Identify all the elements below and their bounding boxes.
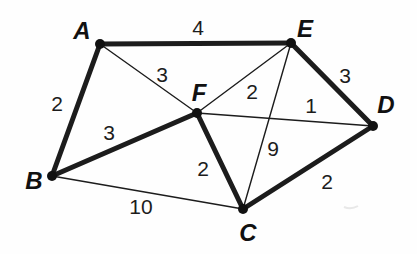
node-dot-F: [192, 108, 202, 118]
edge-weight-A-E: 4: [192, 16, 204, 39]
edge-A-F: [100, 44, 197, 113]
edge-C-D: [243, 126, 373, 209]
edge-weight-F-D: 1: [305, 94, 317, 117]
graph-canvas: 423321329210ABCDEF: [0, 0, 417, 254]
edge-weight-A-F: 3: [156, 63, 168, 86]
edge-weight-A-B: 2: [51, 92, 63, 115]
scan-smudge: [344, 206, 358, 208]
edge-weight-F-C: 2: [197, 157, 209, 180]
edge-weight-C-D: 2: [321, 170, 333, 193]
edge-weight-E-D: 3: [339, 64, 351, 87]
node-dot-B: [47, 171, 57, 181]
edge-E-F: [197, 43, 291, 113]
edge-weight-B-C: 10: [129, 195, 152, 218]
edge-weight-E-F: 2: [246, 80, 258, 103]
node-label-F: F: [192, 79, 208, 106]
edge-E-D: [291, 43, 373, 126]
node-label-E: E: [297, 15, 314, 42]
edge-weight-E-C: 9: [267, 137, 279, 160]
node-dot-C: [238, 204, 248, 214]
node-dot-A: [95, 39, 105, 49]
node-dot-E: [286, 38, 296, 48]
edge-F-D: [197, 113, 373, 126]
graph-svg: 423321329210ABCDEF: [0, 0, 417, 254]
edge-A-E: [100, 43, 291, 44]
node-label-A: A: [72, 17, 90, 44]
edge-weight-B-F: 3: [103, 121, 115, 144]
node-label-B: B: [25, 167, 42, 194]
node-label-D: D: [377, 91, 394, 118]
node-label-C: C: [239, 219, 257, 246]
node-dot-D: [368, 121, 378, 131]
